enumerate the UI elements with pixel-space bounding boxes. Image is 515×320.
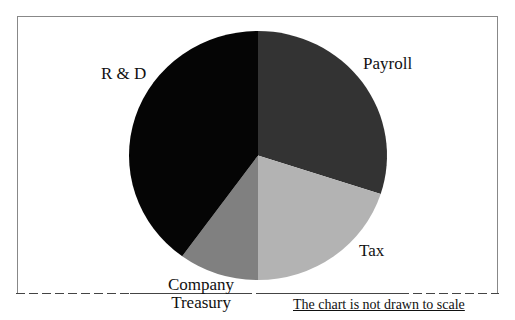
slice-label-rd: R & D — [101, 65, 146, 83]
slice-label-payroll: Payroll — [363, 55, 412, 73]
slice-label-company-treasury: Company Treasury — [168, 276, 234, 312]
pie-slices — [129, 31, 387, 280]
scale-disclaimer: The chart is not drawn to scale — [293, 297, 465, 313]
pie-chart — [0, 0, 515, 320]
slice-label-tax: Tax — [359, 242, 384, 260]
slice-label-company-treasury-line1: Company — [168, 276, 234, 294]
slice-label-company-treasury-line2: Treasury — [168, 294, 234, 312]
